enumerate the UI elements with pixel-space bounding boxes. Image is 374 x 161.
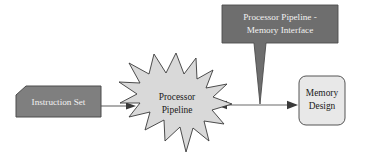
callout-label-line2: Memory Interface	[247, 25, 314, 35]
instruction-set-label: Instruction Set	[32, 97, 86, 107]
processor-pipeline-star-shape	[119, 53, 232, 152]
diagram-svg: Instruction Set Processor Pipeline Memor…	[0, 0, 374, 161]
processor-pipeline-label-line2: Pipeline	[162, 105, 193, 115]
memory-design-label-line2: Design	[309, 101, 336, 111]
diagram-canvas: Instruction Set Processor Pipeline Memor…	[0, 0, 374, 161]
node-processor-pipeline[interactable]: Processor Pipeline	[119, 53, 232, 152]
processor-pipeline-label-line1: Processor	[159, 92, 196, 102]
callout-label-line1: Processor Pipeline -	[243, 12, 317, 22]
node-memory-design[interactable]: Memory Design	[299, 76, 345, 125]
memory-design-label-line1: Memory	[306, 88, 339, 98]
arrowhead-right-icon	[287, 101, 298, 109]
node-instruction-set[interactable]: Instruction Set	[16, 86, 101, 117]
connector-instruction-set-to-pipeline	[101, 102, 136, 109]
arrowhead-right-icon	[126, 102, 136, 109]
